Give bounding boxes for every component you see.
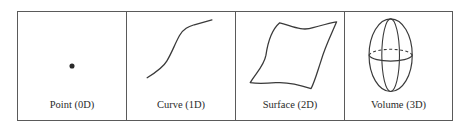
dimension-diagram: Point (0D) Curve (1D) Surface (2D) — [0, 0, 469, 128]
panel-volume: Volume (3D) — [344, 12, 452, 120]
panel-point: Point (0D) — [18, 12, 126, 120]
panel-label-surface: Surface (2D) — [236, 99, 344, 111]
panel-surface: Surface (2D) — [235, 12, 344, 120]
panel-curve: Curve (1D) — [126, 12, 235, 120]
panel-label-point: Point (0D) — [18, 99, 126, 111]
diagram-frame: Point (0D) Curve (1D) Surface (2D) — [17, 11, 453, 121]
panel-label-curve: Curve (1D) — [127, 99, 235, 111]
panel-label-volume: Volume (3D) — [345, 99, 452, 111]
